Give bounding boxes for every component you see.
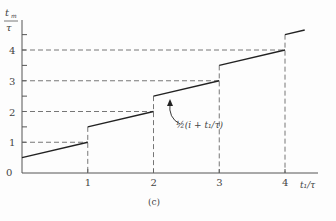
series-segment — [22, 142, 88, 157]
x-tick-label: 0 — [6, 167, 12, 178]
series-segment — [219, 50, 285, 65]
y-label-numerator: t — [5, 7, 10, 18]
annotation-label: ½(i + t₁/τ) — [176, 120, 224, 130]
dashed-guides — [22, 35, 285, 173]
x-tick-label: 2 — [151, 177, 157, 188]
figure-caption: (c) — [148, 197, 160, 207]
series-segment — [154, 81, 220, 96]
step-chart: 012341234 t m τ t₁/τ ½(i + t₁/τ) (c) — [0, 0, 336, 221]
annotation: ½(i + t₁/τ) — [167, 99, 224, 130]
series-segment — [285, 30, 305, 35]
series-line — [22, 30, 305, 158]
y-label-subscript: m — [11, 12, 17, 19]
x-axis-label: t₁/τ — [300, 180, 316, 190]
y-axis-label: t m τ — [4, 7, 18, 33]
y-tick-label: 4 — [9, 45, 15, 56]
axes — [22, 20, 318, 173]
y-label-denominator: τ — [6, 22, 12, 33]
y-tick-label: 1 — [9, 137, 15, 148]
tick-labels: 012341234 — [6, 45, 288, 188]
y-tick-label: 3 — [9, 76, 15, 87]
x-tick-label: 1 — [85, 177, 91, 188]
series-segment — [88, 112, 154, 127]
x-tick-label: 3 — [216, 177, 222, 188]
x-tick-label: 4 — [282, 177, 288, 188]
y-tick-label: 2 — [9, 107, 15, 118]
